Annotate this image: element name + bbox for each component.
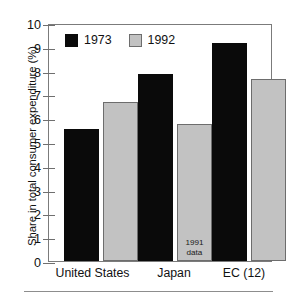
legend-item-1992: 1992 — [129, 33, 176, 47]
y-tick-label-3: 3 — [34, 185, 41, 199]
plot-area: 10 9 8 7 6 — [48, 24, 272, 262]
bar-ec-12-1973 — [212, 43, 247, 261]
legend-item-1973: 1973 — [65, 33, 112, 47]
y-tick-label-1: 1 — [34, 232, 41, 246]
bar-annotation-line1: 1991 — [178, 238, 211, 248]
y-tick-label-0: 0 — [34, 256, 41, 270]
bar-annotation-line2: data — [178, 248, 211, 258]
bar-annotation-1991-data: 1991 data — [178, 238, 211, 258]
legend: 1973 1992 — [65, 33, 175, 47]
gray-square-icon — [129, 34, 142, 47]
bottom-divider-rule — [24, 291, 273, 292]
legend-label-1992: 1992 — [148, 33, 176, 47]
y-tick-label-6: 6 — [34, 113, 41, 127]
plot-inner: 10 9 8 7 6 — [49, 25, 271, 261]
y-tick-label-2: 2 — [34, 208, 41, 222]
x-axis-label-ec-12: EC (12) — [211, 266, 277, 280]
bar-united-states-1992 — [103, 102, 138, 262]
y-tick-label-7: 7 — [34, 89, 41, 103]
bar-united-states-1973 — [64, 129, 99, 261]
black-square-icon — [65, 34, 78, 47]
bar-ec-12-1992 — [251, 79, 286, 261]
y-tick-label-10: 10 — [27, 18, 41, 32]
y-tick-label-5: 5 — [34, 137, 41, 151]
y-tick-label-9: 9 — [34, 42, 41, 56]
legend-label-1973: 1973 — [84, 33, 112, 47]
y-tick-label-8: 8 — [34, 66, 41, 80]
bar-chart-figure: Share in total consumer expenditure (%) … — [0, 0, 291, 303]
bar-japan-1992: 1991 data — [177, 124, 212, 261]
y-tick-label-4: 4 — [34, 161, 41, 175]
x-axis-label-japan: Japan — [137, 266, 211, 280]
bar-japan-1973 — [138, 74, 173, 261]
x-axis-label-united-states: United States — [48, 266, 137, 280]
